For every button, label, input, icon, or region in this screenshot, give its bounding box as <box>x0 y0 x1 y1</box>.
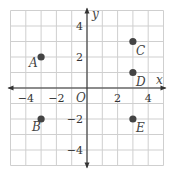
origin-label: O <box>76 91 86 105</box>
point-label: E <box>135 121 145 135</box>
x-tick-label: 4 <box>145 92 152 105</box>
point-label: C <box>136 44 145 58</box>
point-label: D <box>135 75 146 89</box>
y-tick-label: 4 <box>76 20 83 33</box>
point-a: A <box>28 53 45 70</box>
y-axis-label: y <box>91 7 99 21</box>
coordinate-plane: −4−22442−2−4 ABCDE x y O <box>0 0 172 183</box>
x-tick-label: −4 <box>18 92 34 105</box>
point-e: E <box>129 115 145 135</box>
y-tick-label: −4 <box>67 144 83 157</box>
x-tick-label: 2 <box>114 92 121 105</box>
y-tick-label: 2 <box>76 51 83 64</box>
point-d: D <box>129 69 146 89</box>
x-tick-label: −2 <box>48 92 64 105</box>
point-label: B <box>31 120 41 134</box>
point-b: B <box>31 115 45 134</box>
point-label: A <box>28 56 38 70</box>
point-marker <box>38 53 45 60</box>
y-tick-label: −2 <box>67 113 83 126</box>
point-c: C <box>129 38 145 58</box>
x-axis-label: x <box>156 73 163 87</box>
